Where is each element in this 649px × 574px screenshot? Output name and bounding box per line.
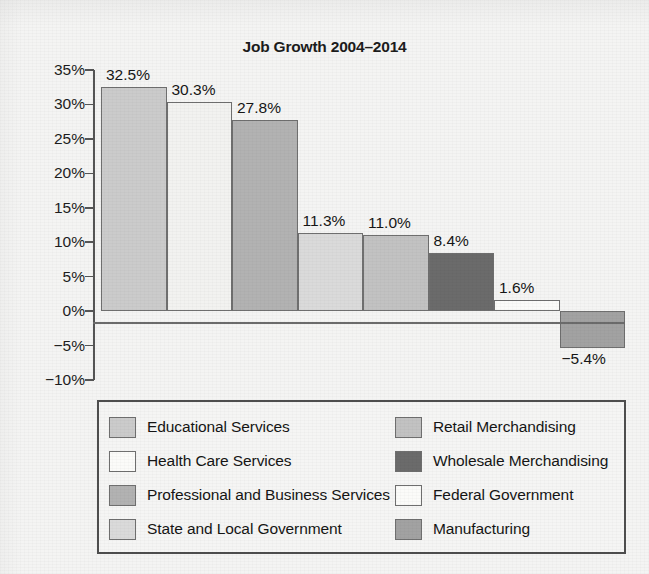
legend-swatch [109, 417, 136, 438]
y-axis-tick [85, 241, 94, 243]
y-axis-tick-label: 20% [15, 164, 85, 182]
job-growth-chart: Job Growth 2004–2014 35%30%25%20%15%10%5… [0, 0, 649, 574]
legend-item: Manufacturing [395, 512, 623, 546]
legend-column-left: Educational ServicesHealth Care Services… [109, 410, 399, 546]
legend-swatch [395, 451, 422, 472]
y-axis-tick-label: 0% [15, 302, 85, 320]
y-axis-tick [85, 104, 94, 106]
plot-area: 35%30%25%20%15%10%5%0%−5%−10% 32.5%30.3%… [101, 70, 625, 380]
legend-swatch [109, 519, 136, 540]
legend-swatch [395, 485, 422, 506]
bar [298, 233, 364, 311]
legend-item: Federal Government [395, 478, 623, 512]
legend-item-label: Federal Government [433, 486, 573, 504]
chart-title: Job Growth 2004–2014 [0, 38, 649, 56]
bar-value-label: 11.3% [303, 212, 346, 230]
bar-value-label: 30.3% [172, 81, 216, 99]
y-axis-tick [85, 69, 94, 71]
legend-item-label: State and Local Government [147, 520, 342, 538]
y-axis-tick-label: 25% [15, 130, 85, 148]
bar [167, 102, 233, 311]
bar [560, 311, 626, 348]
legend-item-label: Wholesale Merchandising [433, 452, 608, 470]
zero-baseline [93, 322, 625, 324]
y-axis-tick-label: 35% [15, 61, 85, 79]
legend-item: Wholesale Merchandising [395, 444, 623, 478]
bar [101, 87, 167, 311]
legend-item-label: Retail Merchandising [433, 418, 576, 436]
legend-item-label: Educational Services [147, 418, 290, 436]
bar-value-label: 8.4% [434, 232, 469, 250]
y-axis-tick [85, 379, 94, 381]
y-axis-tick-label: −10% [15, 371, 85, 389]
chart-legend: Educational ServicesHealth Care Services… [97, 400, 626, 554]
legend-column-right: Retail MerchandisingWholesale Merchandis… [395, 410, 623, 546]
bar-value-label: 32.5% [106, 66, 150, 84]
y-axis-line [93, 70, 95, 380]
legend-item-label: Health Care Services [147, 452, 291, 470]
y-axis-tick [85, 173, 94, 175]
y-axis-tick-label: 10% [15, 233, 85, 251]
legend-swatch [109, 451, 136, 472]
bar [232, 120, 298, 312]
y-axis-tick [85, 276, 94, 278]
legend-swatch [395, 519, 422, 540]
legend-item: State and Local Government [109, 512, 399, 546]
y-axis-tick-label: 15% [15, 199, 85, 217]
bar [429, 253, 495, 311]
legend-swatch [395, 417, 422, 438]
bar [494, 300, 560, 311]
bar-value-label: 27.8% [237, 99, 281, 117]
bar-value-label: 11.0% [368, 214, 411, 232]
y-axis-tick [85, 138, 94, 140]
y-axis-tick [85, 207, 94, 209]
y-axis-tick-label: −5% [15, 337, 85, 355]
legend-item: Health Care Services [109, 444, 399, 478]
y-axis-tick-label: 30% [15, 95, 85, 113]
legend-item: Educational Services [109, 410, 399, 444]
y-axis-tick [85, 345, 94, 347]
y-axis-tick-labels: 35%30%25%20%15%10%5%0%−5%−10% [9, 70, 85, 380]
legend-item-label: Professional and Business Services [147, 486, 390, 504]
y-axis-tick-label: 5% [15, 268, 85, 286]
bar [363, 235, 429, 311]
y-axis-tick [85, 310, 94, 312]
legend-swatch [109, 485, 136, 506]
legend-item: Retail Merchandising [395, 410, 623, 444]
bar-value-label: −5.4% [562, 350, 606, 368]
bar-value-label: 1.6% [499, 279, 534, 297]
legend-item: Professional and Business Services [109, 478, 399, 512]
legend-item-label: Manufacturing [433, 520, 530, 538]
